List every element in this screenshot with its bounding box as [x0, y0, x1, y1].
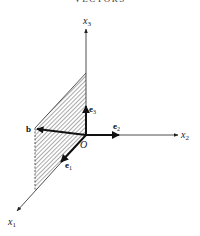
label-x3: x3	[82, 15, 91, 28]
label-x2: x2	[180, 129, 189, 142]
label-b: b	[26, 124, 31, 134]
figure-page: VECTORS	[0, 0, 200, 236]
label-e2: e2	[113, 121, 120, 132]
label-x1: x1	[7, 216, 16, 229]
label-e3: e3	[89, 104, 96, 115]
label-origin: O	[80, 139, 87, 150]
label-e1: e1	[65, 160, 72, 171]
vector-diagram: x3 x2 x1 O e3 e2 e1 b	[0, 0, 200, 236]
